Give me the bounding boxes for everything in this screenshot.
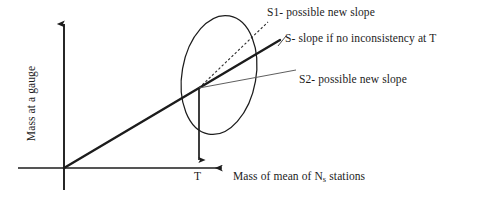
annotation-s1-label: S1- possible new slope <box>267 6 375 19</box>
x-axis-label-suffix: stations <box>326 170 365 182</box>
annotation-s-label: S- slope if no inconsistency at T <box>285 32 436 45</box>
annotation-s2-label: S2- possible new slope <box>299 73 407 86</box>
slope-s1-line <box>199 22 268 88</box>
y-axis-label: Mass at a gauge <box>25 49 38 159</box>
break-point-label: T <box>194 170 201 183</box>
x-axis-label: Mass of mean of Ns stations <box>233 170 365 186</box>
x-axis-label-prefix: Mass of mean of N <box>233 170 323 182</box>
slope-s-line <box>64 40 280 168</box>
double-mass-curve-figure: S1- possible new slope S- slope if no in… <box>0 0 477 197</box>
diagram-canvas <box>0 0 477 197</box>
